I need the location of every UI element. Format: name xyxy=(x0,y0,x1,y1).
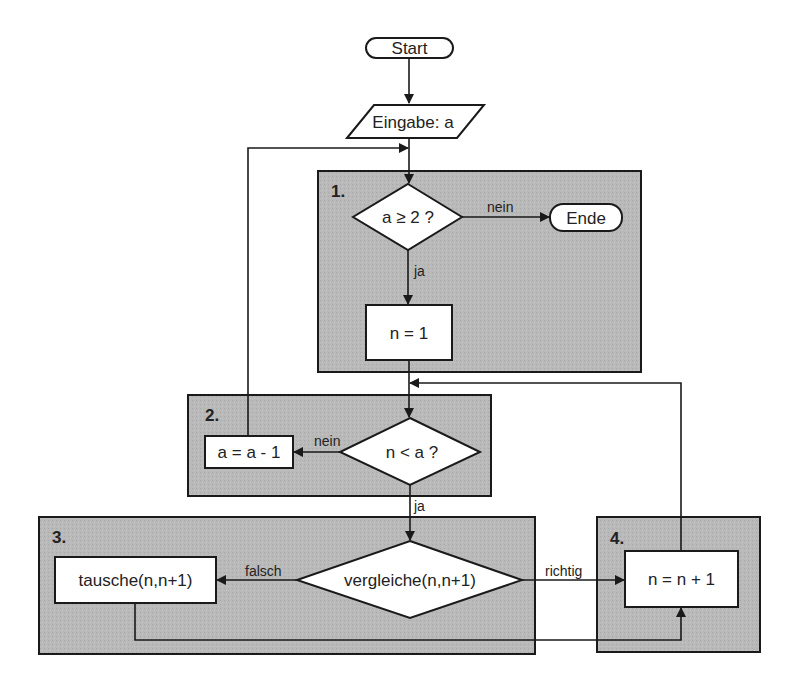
edge-label-cond-a-yes: ja xyxy=(413,263,425,279)
cond-a-label: a ≥ 2 ? xyxy=(382,208,434,227)
node-swap: tausche(n,n+1) xyxy=(55,557,216,603)
end-label: Ende xyxy=(566,209,606,228)
node-end: Ende xyxy=(550,204,622,231)
group-2-number: 2. xyxy=(205,406,219,425)
cond-n-label: n < a ? xyxy=(386,443,438,462)
node-inc-n: n = n + 1 xyxy=(625,551,738,607)
input-label: Eingabe: a xyxy=(372,113,454,132)
group-1-number: 1. xyxy=(331,182,345,201)
edge-label-compare-false: falsch xyxy=(245,563,282,579)
edge-label-compare-true: richtig xyxy=(545,563,582,579)
node-dec-a: a = a - 1 xyxy=(205,436,293,468)
group-3-number: 3. xyxy=(52,528,66,547)
edge-label-cond-a-no: nein xyxy=(487,199,513,215)
edge-label-cond-n-no: nein xyxy=(314,433,340,449)
compare-label: vergleiche(n,n+1) xyxy=(344,571,476,590)
node-input: Eingabe: a xyxy=(347,105,484,138)
init-n-label: n = 1 xyxy=(390,324,428,343)
group-4-number: 4. xyxy=(610,529,624,548)
swap-label: tausche(n,n+1) xyxy=(79,571,193,590)
node-init-n: n = 1 xyxy=(366,305,452,360)
inc-n-label: n = n + 1 xyxy=(648,570,715,589)
flowchart-canvas: 1. 2. 3. 4. xyxy=(0,0,792,690)
start-label: Start xyxy=(392,39,428,58)
dec-a-label: a = a - 1 xyxy=(218,443,281,462)
edge-label-cond-n-yes: ja xyxy=(413,498,425,514)
node-start: Start xyxy=(366,38,453,58)
